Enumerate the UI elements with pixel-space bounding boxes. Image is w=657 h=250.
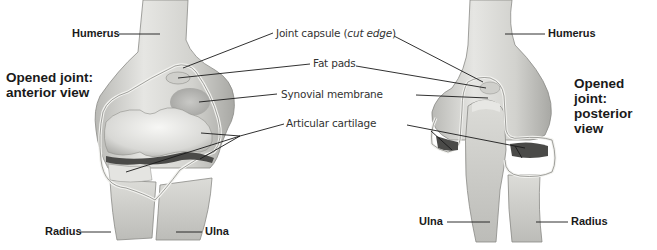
label-posterior-humerus: Humerus <box>548 28 596 39</box>
label-synovial-membrane: Synovial membrane <box>281 89 383 100</box>
label-joint-capsule: Joint capsule (cut edge) <box>276 28 396 39</box>
joint-capsule-close-paren: ) <box>392 27 396 39</box>
joint-capsule-text: Joint capsule ( <box>276 27 347 39</box>
label-anterior-ulna: Ulna <box>205 226 229 237</box>
label-anterior-radius: Radius <box>45 226 82 237</box>
anterior-view-title: Opened joint: anterior view <box>6 70 93 100</box>
label-fat-pads: Fat pads <box>313 58 356 69</box>
joint-capsule-cut-edge-text: cut edge <box>347 27 392 39</box>
label-posterior-radius: Radius <box>571 216 608 227</box>
label-anterior-humerus: Humerus <box>72 28 120 39</box>
posterior-view-illustration <box>432 0 556 242</box>
posterior-radius-shape <box>508 175 542 242</box>
posterior-ulna-shape <box>465 100 506 242</box>
posterior-view-title: Opened joint: posterior view <box>574 76 657 136</box>
posterior-title-line1: Opened joint: <box>574 76 657 106</box>
leader-cartilage-anterior-main <box>240 124 284 136</box>
anterior-radial-head <box>108 164 152 182</box>
anterior-title-line1: Opened joint: <box>6 70 93 85</box>
posterior-joint-cavity-right <box>510 142 548 158</box>
elbow-joint-figure: Opened joint: anterior view Humerus Radi… <box>0 0 657 250</box>
anterior-title-line2: anterior view <box>6 85 93 100</box>
leader-capsule-anterior <box>183 33 273 68</box>
label-articular-cartilage: Articular cartilage <box>286 118 376 129</box>
posterior-fat-pad <box>480 82 500 94</box>
posterior-title-line2: posterior view <box>574 106 657 136</box>
label-posterior-ulna: Ulna <box>419 216 443 227</box>
